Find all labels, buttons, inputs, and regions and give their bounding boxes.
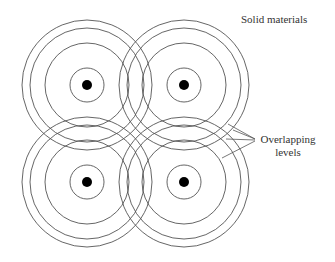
nucleus-icon <box>82 177 92 187</box>
diagram-canvas <box>0 0 335 262</box>
nuclei <box>82 80 189 187</box>
overlapping-levels-label: Overlapping levels <box>256 133 320 159</box>
diagram-title: Solid materials <box>241 13 307 26</box>
leader-lines <box>222 124 255 158</box>
annotation-line-2: levels <box>256 146 320 159</box>
energy-levels <box>22 20 249 247</box>
annotation-line-1: Overlapping <box>256 133 320 146</box>
nucleus-icon <box>82 80 92 90</box>
nucleus-icon <box>179 80 189 90</box>
nucleus-icon <box>179 177 189 187</box>
